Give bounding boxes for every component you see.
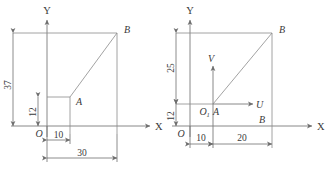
right-origin-label: O bbox=[177, 128, 184, 139]
right-dim-12-label: 12 bbox=[166, 111, 176, 121]
right-axis-y-label: Y bbox=[186, 5, 194, 16]
left-point-a-label: A bbox=[75, 96, 83, 107]
right-dim-10-label: 10 bbox=[196, 133, 206, 143]
right-axis-v-label: V bbox=[208, 53, 216, 64]
right-local-origin-subscript: 1 bbox=[206, 111, 209, 118]
right-dim-20-label: 20 bbox=[237, 133, 247, 143]
figure-root: 37 12 10 30 Y X O A B bbox=[0, 0, 325, 171]
right-diagonal-ab bbox=[213, 33, 272, 104]
left-origin-label: O bbox=[35, 128, 42, 139]
left-axis-y-label: Y bbox=[43, 5, 51, 16]
left-dim-37-label: 37 bbox=[3, 80, 13, 90]
right-point-a-label: A bbox=[212, 106, 220, 117]
left-dim-10-label: 10 bbox=[54, 130, 64, 140]
left-axis-x-label: X bbox=[155, 121, 163, 132]
right-point-b2-label: B bbox=[259, 114, 265, 125]
right-panel: 25 12 10 20 Y X U V O O 1 A B B bbox=[166, 5, 325, 148]
right-axis-x-label: X bbox=[317, 121, 325, 132]
left-point-b-label: B bbox=[124, 24, 130, 35]
left-dim-12-label: 12 bbox=[28, 107, 38, 117]
diagram-canvas: 37 12 10 30 Y X O A B bbox=[0, 0, 325, 171]
right-axis-u-label: U bbox=[256, 99, 264, 110]
right-point-b-label: B bbox=[279, 24, 285, 35]
left-dim-30-label: 30 bbox=[77, 148, 87, 158]
right-dim-25-label: 25 bbox=[166, 63, 176, 73]
left-panel: 37 12 10 30 Y X O A B bbox=[3, 5, 163, 162]
left-diagonal-ab bbox=[70, 33, 117, 97]
